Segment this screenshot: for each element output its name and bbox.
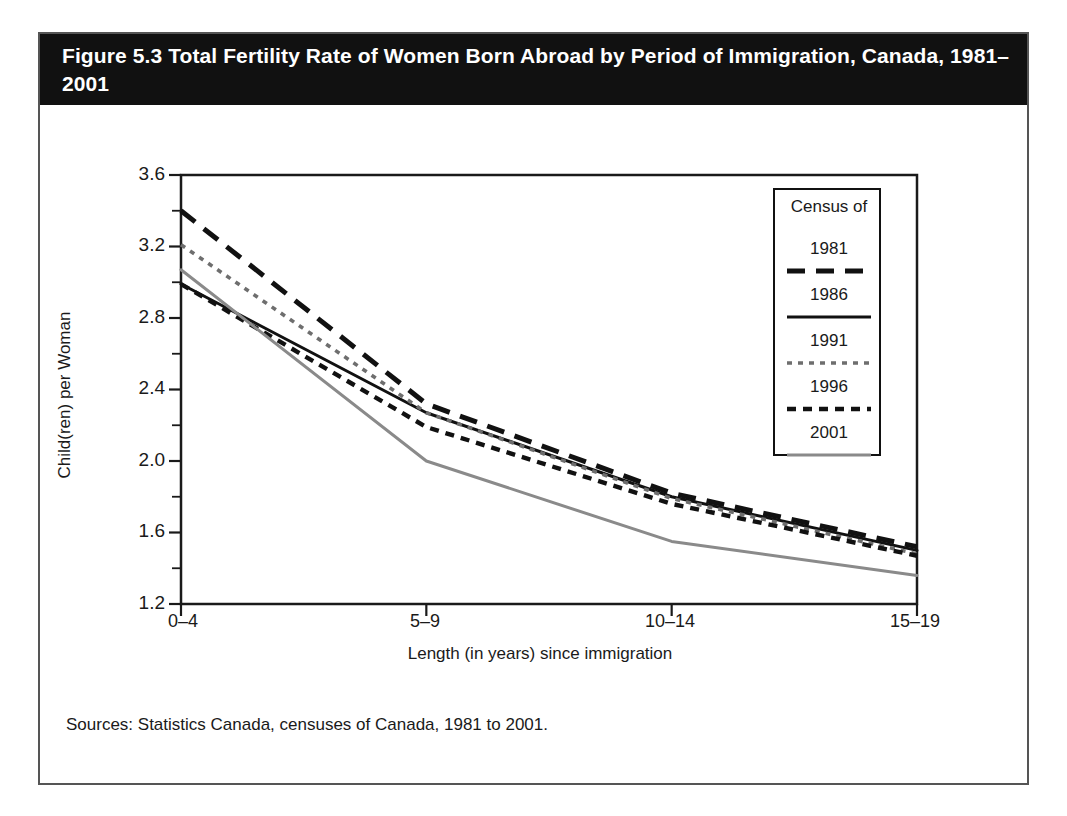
chart-canvas bbox=[0, 0, 1067, 816]
y-tick-label: 2.4 bbox=[105, 377, 165, 399]
figure-page: Figure 5.3 Total Fertility Rate of Women… bbox=[0, 0, 1067, 816]
legend-swatch-1991 bbox=[787, 360, 871, 365]
x-tick-label: 5–9 bbox=[370, 611, 480, 632]
y-axis-title: Child(ren) per Woman bbox=[55, 285, 75, 505]
legend-label-1996: 1996 bbox=[775, 377, 883, 397]
legend-label-1986: 1986 bbox=[775, 285, 883, 305]
legend-swatch-1981 bbox=[787, 268, 871, 273]
chart-legend: Census of 1981 1986 1991 1996 2001 bbox=[773, 188, 881, 456]
y-tick-label: 2.0 bbox=[105, 449, 165, 471]
x-tick-label: 0–4 bbox=[128, 611, 238, 632]
y-tick-label: 2.8 bbox=[105, 306, 165, 328]
y-tick-label: 3.6 bbox=[105, 163, 165, 185]
legend-label-2001: 2001 bbox=[775, 423, 883, 443]
legend-swatch-1986 bbox=[787, 314, 871, 319]
legend-swatch-1996 bbox=[787, 406, 871, 411]
y-tick-label: 3.2 bbox=[105, 234, 165, 256]
legend-label-1981: 1981 bbox=[775, 239, 883, 259]
x-tick-label: 10–14 bbox=[615, 611, 725, 632]
legend-label-1991: 1991 bbox=[775, 331, 883, 351]
legend-swatch-2001 bbox=[787, 452, 871, 457]
x-tick-label: 15–19 bbox=[860, 611, 970, 632]
legend-title: Census of bbox=[775, 197, 883, 217]
x-axis-title: Length (in years) since immigration bbox=[330, 644, 750, 664]
sources-note: Sources: Statistics Canada, censuses of … bbox=[66, 715, 946, 735]
y-tick-label: 1.6 bbox=[105, 520, 165, 542]
